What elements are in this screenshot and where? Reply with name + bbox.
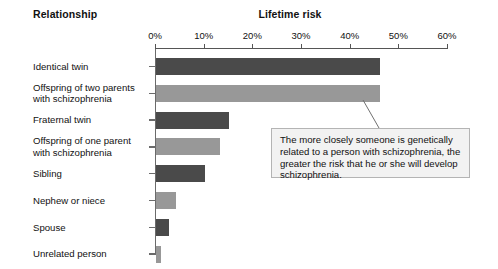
x-tick-label: 10% [187, 30, 221, 41]
x-tick-20pct [252, 44, 253, 49]
category-label-nephew-or-niece: Nephew or niece [33, 195, 151, 207]
category-label-fraternal-twin: Fraternal twin [33, 114, 151, 126]
x-tick-label: 60% [430, 30, 464, 41]
y-tick-sibling [149, 173, 155, 174]
y-tick-unrelated-person [149, 253, 155, 254]
x-tick-label: 20% [235, 30, 269, 41]
category-label-sibling: Sibling [33, 168, 151, 180]
x-tick-40pct [350, 44, 351, 49]
callout-annotation: The more closely someone is genetically … [271, 128, 470, 178]
bar-offspring-of-one-parent-with-schizophrenia [156, 138, 219, 155]
x-tick-label: 0% [138, 30, 172, 41]
column-header-relationship: Relationship [33, 8, 97, 20]
x-tick-label: 30% [284, 30, 318, 41]
bar-unrelated-person [156, 246, 161, 263]
x-tick-50pct [398, 44, 399, 49]
x-axis-line [155, 48, 447, 49]
category-label-identical-twin: Identical twin [33, 61, 151, 73]
bar-identical-twin [156, 58, 380, 75]
bar-spouse [156, 219, 168, 236]
category-label-offspring-of-two-parents-with-schizophrenia: Offspring of two parents with schizophre… [33, 82, 151, 105]
x-tick-30pct [301, 44, 302, 49]
x-tick-60pct [447, 44, 448, 49]
y-tick-offspring-of-two-parents-with-schizophrenia [149, 93, 155, 94]
y-tick-nephew-or-niece [149, 200, 155, 201]
category-label-spouse: Spouse [33, 222, 151, 234]
x-tick-0pct [155, 44, 156, 49]
bar-sibling [156, 165, 205, 182]
category-label-unrelated-person: Unrelated person [33, 248, 151, 260]
y-tick-fraternal-twin [149, 119, 155, 120]
y-tick-identical-twin [149, 66, 155, 67]
bar-fraternal-twin [156, 112, 229, 129]
bar-offspring-of-two-parents-with-schizophrenia [156, 85, 380, 102]
x-tick-10pct [204, 44, 205, 49]
schizophrenia-risk-chart: Relationship Lifetime risk 0%10%20%30%40… [0, 0, 498, 269]
category-label-offspring-of-one-parent-with-schizophrenia: Offspring of one parent with schizophren… [33, 135, 151, 158]
y-tick-spouse [149, 227, 155, 228]
callout-leader-line [358, 99, 384, 129]
x-tick-label: 40% [333, 30, 367, 41]
y-tick-offspring-of-one-parent-with-schizophrenia [149, 146, 155, 147]
bar-nephew-or-niece [156, 192, 175, 209]
column-header-lifetime-risk: Lifetime risk [245, 8, 335, 20]
x-tick-label: 50% [381, 30, 415, 41]
